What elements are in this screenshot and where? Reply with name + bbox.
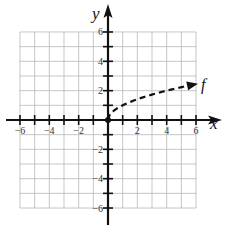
x-tick-label: 4 [164,125,169,136]
y-tick-label: −6 [92,203,103,214]
y-axis-label: y [90,4,100,23]
x-tick-label: −4 [44,125,55,136]
x-tick-label: 2 [135,125,140,136]
coordinate-plane: −6−4−2246642−2−4−6 x y f [0,0,228,228]
function-label-f: f [201,76,208,94]
axes [6,4,222,225]
y-tick-label: 2 [98,85,103,96]
y-tick-label: 4 [98,56,103,67]
y-tick-label: −4 [92,173,103,184]
curve-f-path [108,85,192,120]
x-tick-label: −6 [15,125,26,136]
x-tick-label: 6 [194,125,199,136]
y-tick-label: 6 [98,26,103,37]
y-tick-label: −2 [92,144,103,155]
x-tick-label: −2 [73,125,84,136]
start-point-closed-dot [105,117,111,123]
x-axis-label: x [209,114,218,133]
